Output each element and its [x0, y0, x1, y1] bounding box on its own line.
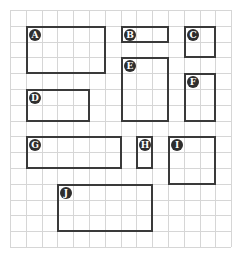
label-badge-e: E	[124, 60, 136, 72]
rectangle-g: G	[26, 136, 122, 169]
label-badge-h: H	[139, 139, 151, 151]
rectangle-e: E	[121, 57, 169, 122]
rectangle-b: B	[121, 26, 169, 43]
rectangle-d: D	[26, 89, 90, 122]
label-badge-a: A	[29, 29, 41, 41]
label-badge-b: B	[124, 29, 136, 41]
grid-line-vertical	[231, 10, 232, 247]
label-badge-f: F	[187, 76, 199, 88]
rectangle-h: H	[136, 136, 153, 169]
grid-line-horizontal	[10, 247, 231, 248]
label-badge-c: C	[187, 29, 199, 41]
label-badge-i: I	[171, 139, 183, 151]
label-badge-j: J	[60, 187, 72, 199]
rectangle-c: C	[184, 26, 216, 58]
label-badge-d: D	[29, 92, 41, 104]
grid-line-vertical	[168, 10, 169, 247]
rectangle-i: I	[168, 136, 216, 185]
label-badge-g: G	[29, 139, 41, 151]
grid-line-vertical	[10, 10, 11, 247]
grid-diagram: A B C D E F G H I J	[0, 0, 239, 261]
rectangle-j: J	[57, 184, 153, 232]
grid-line-horizontal	[10, 10, 231, 11]
rectangle-a: A	[26, 26, 106, 74]
rectangle-f: F	[184, 73, 216, 122]
